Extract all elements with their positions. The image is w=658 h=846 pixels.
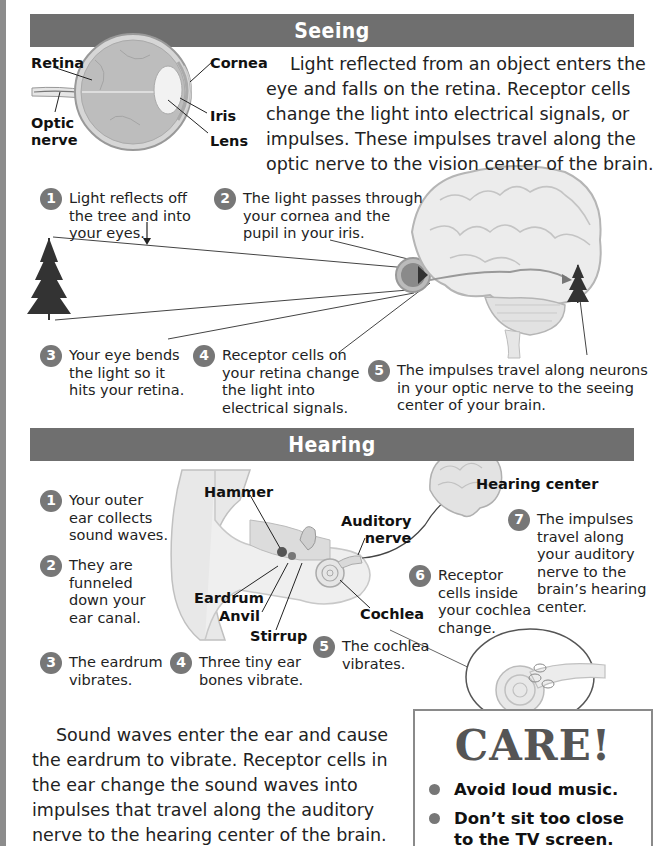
label-optic-nerve: Optic nerve bbox=[31, 115, 78, 149]
care-item: Avoid loud music. bbox=[429, 779, 644, 800]
seeing-step-5: 5 The impulses travel along neurons in y… bbox=[368, 362, 648, 415]
step-number-badge: 6 bbox=[409, 565, 431, 587]
seeing-title: Seeing bbox=[294, 19, 370, 43]
step-number-badge: 1 bbox=[40, 490, 62, 512]
step-number-badge: 4 bbox=[170, 652, 192, 674]
care-item-text: Don’t sit too close to the TV screen. bbox=[454, 808, 644, 846]
label-iris: Iris bbox=[210, 108, 236, 125]
care-tips-box: CARE! Avoid loud music. Don’t sit too cl… bbox=[413, 709, 653, 846]
step-number-badge: 5 bbox=[368, 360, 390, 382]
step-number-badge: 3 bbox=[40, 345, 62, 367]
step-text: The impulses travel along your auditory … bbox=[537, 511, 646, 616]
hearing-title: Hearing bbox=[288, 433, 376, 457]
bullet-icon bbox=[429, 813, 440, 824]
seeing-step-4: 4 Receptor cells on your retina change t… bbox=[193, 347, 360, 417]
step-text: They are funneled down your ear canal. bbox=[69, 557, 145, 627]
bullet-icon bbox=[429, 784, 440, 795]
label-auditory-nerve: Auditory nerve bbox=[341, 513, 411, 547]
label-stirrup: Stirrup bbox=[250, 628, 307, 645]
step-text: Three tiny ear bones vibrate. bbox=[199, 654, 303, 689]
seeing-step-3: 3 Your eye bends the light so it hits yo… bbox=[40, 347, 184, 400]
step-number-badge: 5 bbox=[313, 636, 335, 658]
care-list: Avoid loud music. Don’t sit too close to… bbox=[429, 779, 644, 846]
seeing-section-header: Seeing bbox=[30, 14, 634, 47]
label-cornea: Cornea bbox=[210, 55, 268, 72]
seeing-step-1: 1 Light reflects off the tree and into y… bbox=[40, 190, 191, 243]
brain-icon bbox=[412, 166, 601, 358]
label-retina: Retina bbox=[31, 55, 84, 72]
step-text: Your eye bends the light so it hits your… bbox=[69, 347, 184, 400]
page-edge-strip bbox=[0, 0, 6, 846]
care-item-text: Avoid loud music. bbox=[454, 779, 618, 800]
hearing-step-5: 5 The cochlea vibrates. bbox=[313, 638, 429, 673]
hearing-step-1: 1 Your outer ear collects sound waves. bbox=[40, 492, 168, 545]
label-anvil: Anvil bbox=[219, 608, 260, 625]
hearing-step-3: 3 The eardrum vibrates. bbox=[40, 654, 163, 689]
care-title: CARE! bbox=[415, 721, 651, 770]
step-text: The light passes through your cornea and… bbox=[243, 190, 423, 243]
step-number-badge: 7 bbox=[508, 509, 530, 531]
hearing-step-7: 7 The impulses travel along your auditor… bbox=[508, 511, 646, 616]
seeing-intro-paragraph: Light reflected from an object enters th… bbox=[266, 52, 656, 177]
step-number-badge: 2 bbox=[40, 555, 62, 577]
step-text: The cochlea vibrates. bbox=[342, 638, 429, 673]
small-eye-icon bbox=[396, 258, 430, 292]
step-number-badge: 2 bbox=[214, 188, 236, 210]
step-text: The impulses travel along neurons in you… bbox=[397, 362, 648, 415]
step-text: Your outer ear collects sound waves. bbox=[69, 492, 168, 545]
care-item: Don’t sit too close to the TV screen. bbox=[429, 808, 644, 846]
step-text: Light reflects off the tree and into you… bbox=[69, 190, 191, 243]
step-number-badge: 4 bbox=[193, 345, 215, 367]
seeing-step-2: 2 The light passes through your cornea a… bbox=[214, 190, 423, 243]
step-text: The eardrum vibrates. bbox=[69, 654, 163, 689]
label-hearing-center: Hearing center bbox=[476, 476, 598, 493]
tree-icon bbox=[27, 238, 71, 320]
step-text: Receptor cells on your retina change the… bbox=[222, 347, 360, 417]
label-eardrum: Eardrum bbox=[194, 590, 264, 607]
step-number-badge: 3 bbox=[40, 652, 62, 674]
hearing-step-4: 4 Three tiny ear bones vibrate. bbox=[170, 654, 303, 689]
label-hammer: Hammer bbox=[204, 484, 273, 501]
hearing-section-header: Hearing bbox=[30, 428, 634, 461]
step-number-badge: 1 bbox=[40, 188, 62, 210]
hearing-summary-paragraph: Sound waves enter the ear and cause the … bbox=[32, 723, 402, 846]
hearing-step-2: 2 They are funneled down your ear canal. bbox=[40, 557, 145, 627]
label-lens: Lens bbox=[210, 133, 248, 150]
